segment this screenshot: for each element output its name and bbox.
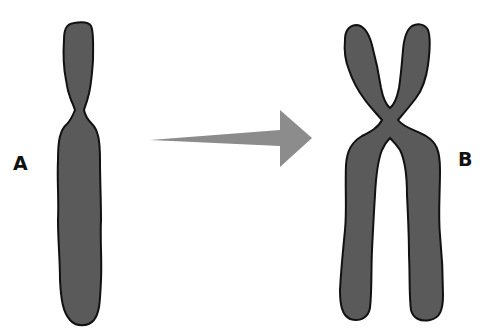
diagram-canvas bbox=[0, 0, 495, 333]
label-b: B bbox=[458, 148, 472, 170]
arrow-icon bbox=[150, 110, 312, 167]
label-a: A bbox=[13, 152, 28, 174]
chromosome-b bbox=[340, 24, 443, 320]
chromosome-a bbox=[58, 22, 102, 325]
